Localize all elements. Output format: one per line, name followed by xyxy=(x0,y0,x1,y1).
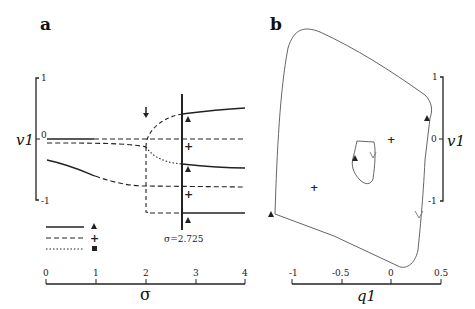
panel-b-markers: + + xyxy=(268,115,430,217)
plus-marker: + xyxy=(387,134,395,145)
sigma-annotation: σ=2.725 xyxy=(164,234,204,244)
large-limit-cycle xyxy=(275,29,432,267)
x-tick-4: 4 xyxy=(242,268,248,278)
x-axis-label: q1 xyxy=(357,287,376,305)
y-tick-neg1: -1 xyxy=(428,196,437,206)
down-arrow-icon xyxy=(143,107,149,118)
y-tick-1: 1 xyxy=(41,73,47,83)
panel-b-x-axis: -1 -0.5 0 0.5 q1 xyxy=(289,268,449,305)
plus-marker: + xyxy=(310,182,318,193)
triangle-marker xyxy=(268,211,274,217)
panel-b-y-axis: 1 0 -1 v1 xyxy=(428,72,465,206)
panel-a-label: a xyxy=(40,14,51,34)
y-tick-0: 0 xyxy=(41,130,47,140)
svg-text:+: + xyxy=(90,232,99,245)
panel-a-legend: + xyxy=(46,223,99,251)
panel-b-label: b xyxy=(270,14,282,34)
x-tick-neg1: -1 xyxy=(289,268,298,278)
x-tick-0: 0 xyxy=(388,268,394,278)
panel-a-markers: + + xyxy=(184,116,193,223)
y-tick-neg1: -1 xyxy=(41,196,50,206)
x-tick-3: 3 xyxy=(193,268,199,278)
triangle-marker xyxy=(185,217,191,223)
plus-marker: + xyxy=(184,188,193,201)
x-axis-label: σ xyxy=(140,285,151,304)
y-tick-0: 0 xyxy=(431,134,437,144)
x-tick-05: 0.5 xyxy=(434,268,449,278)
triangle-marker xyxy=(424,115,430,121)
y-axis-label: v1 xyxy=(16,131,34,149)
x-tick-neg05: -0.5 xyxy=(332,268,350,278)
x-tick-1: 1 xyxy=(93,268,99,278)
panel-a-x-axis: 0 1 2 3 4 σ xyxy=(43,268,248,304)
plus-marker: + xyxy=(184,140,193,153)
figure: a 1 0 -1 v1 + + xyxy=(0,0,475,309)
triangle-marker xyxy=(185,116,191,122)
x-tick-2: 2 xyxy=(143,268,149,278)
y-tick-1: 1 xyxy=(432,72,438,82)
panel-a-y-axis: 1 0 -1 v1 xyxy=(16,73,50,206)
triangle-marker xyxy=(185,166,191,172)
small-limit-cycle xyxy=(352,141,375,184)
y-axis-label: v1 xyxy=(447,132,465,150)
x-tick-0: 0 xyxy=(43,268,49,278)
